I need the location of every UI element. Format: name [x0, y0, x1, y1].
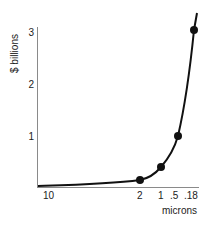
cost-curve — [38, 13, 197, 186]
data-point-2 — [136, 176, 144, 184]
y-tick-3: 3 — [24, 27, 34, 38]
x-axis-label: microns — [162, 205, 197, 216]
chart-area: $ billions 3 2 1 10 2 1 .5 .18 microns — [0, 0, 211, 227]
y-tick-2: 2 — [24, 79, 34, 90]
x-tick-10: 10 — [43, 190, 54, 201]
y-axis-label: $ billions — [9, 29, 20, 79]
data-point-0.5 — [174, 132, 182, 140]
x-tick-0.18: .18 — [184, 190, 198, 201]
data-point-1 — [157, 163, 165, 171]
data-point-0.18 — [190, 26, 198, 34]
x-tick-0.5: .5 — [170, 190, 178, 201]
x-tick-2: 2 — [137, 190, 143, 201]
y-tick-1: 1 — [24, 131, 34, 142]
x-tick-1: 1 — [158, 190, 164, 201]
